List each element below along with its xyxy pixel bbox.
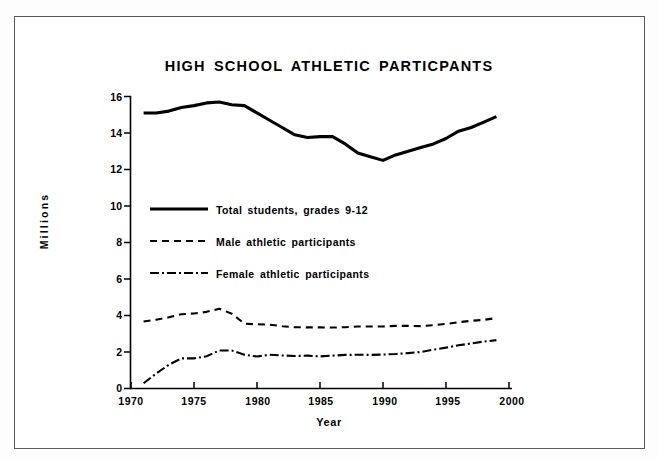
data-series-group: [144, 102, 497, 383]
chart-root: HIGH SCHOOL ATHLETIC PARTICPANTS Million…: [0, 0, 658, 460]
axis-lines: [130, 96, 512, 389]
legend-line-samples: [150, 209, 208, 273]
series-line-2: [144, 309, 497, 328]
series-line-3: [144, 340, 497, 383]
series-line-1: [144, 102, 497, 160]
plot-area: [0, 0, 658, 460]
